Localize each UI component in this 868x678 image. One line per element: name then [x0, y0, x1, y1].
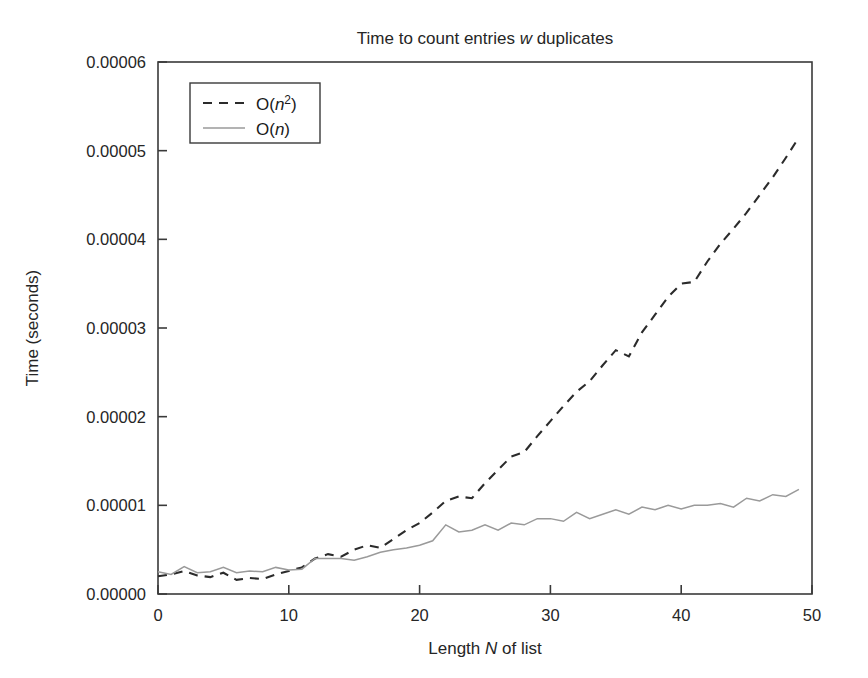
x-axis-label-suffix: of list	[497, 639, 542, 658]
y-tick-group: 0.000000.000010.000020.000030.000040.000…	[86, 53, 167, 603]
x-tick-label: 10	[280, 606, 298, 624]
chart-title-prefix: Time to count entries	[357, 29, 520, 48]
y-axis-label: Time (seconds)	[23, 270, 42, 387]
series-line-on	[158, 489, 799, 574]
chart-canvas: Time to count entries w duplicates Time …	[0, 0, 868, 678]
legend-1-italic: n	[275, 120, 284, 139]
legend-box	[190, 83, 320, 143]
legend: O(n2) O(n)	[190, 83, 320, 143]
y-tick-label: 0.00005	[86, 142, 146, 160]
y-tick-label: 0.00002	[86, 408, 146, 426]
x-tick-label: 20	[410, 606, 428, 624]
legend-1-prefix: O(	[256, 120, 275, 139]
x-axis-label-prefix: Length	[428, 639, 485, 658]
data-series-group	[158, 137, 799, 579]
x-tick-label: 50	[803, 606, 821, 624]
chart-figure: Time to count entries w duplicates Time …	[0, 0, 868, 678]
y-tick-label: 0.00006	[86, 53, 146, 71]
chart-title: Time to count entries w duplicates	[357, 29, 613, 48]
series-line-on2	[158, 137, 799, 579]
x-tick-group: 01020304050	[153, 585, 821, 624]
legend-0-suffix: )	[291, 95, 297, 114]
legend-1-suffix: )	[284, 120, 290, 139]
x-tick-label: 30	[541, 606, 559, 624]
y-tick-label: 0.00000	[86, 585, 146, 603]
x-tick-label: 40	[672, 606, 690, 624]
x-tick-label: 0	[153, 606, 162, 624]
chart-title-suffix: duplicates	[532, 29, 613, 48]
y-tick-label: 0.00003	[86, 319, 146, 337]
legend-label-1: O(n)	[256, 120, 290, 139]
x-axis-label: Length N of list	[428, 639, 542, 658]
y-tick-label: 0.00001	[86, 496, 146, 514]
x-axis-label-italic: N	[485, 639, 498, 658]
legend-0-prefix: O(	[256, 95, 275, 114]
y-tick-label: 0.00004	[86, 230, 146, 248]
legend-0-italic: n	[275, 95, 284, 114]
legend-label-0: O(n2)	[256, 93, 297, 114]
